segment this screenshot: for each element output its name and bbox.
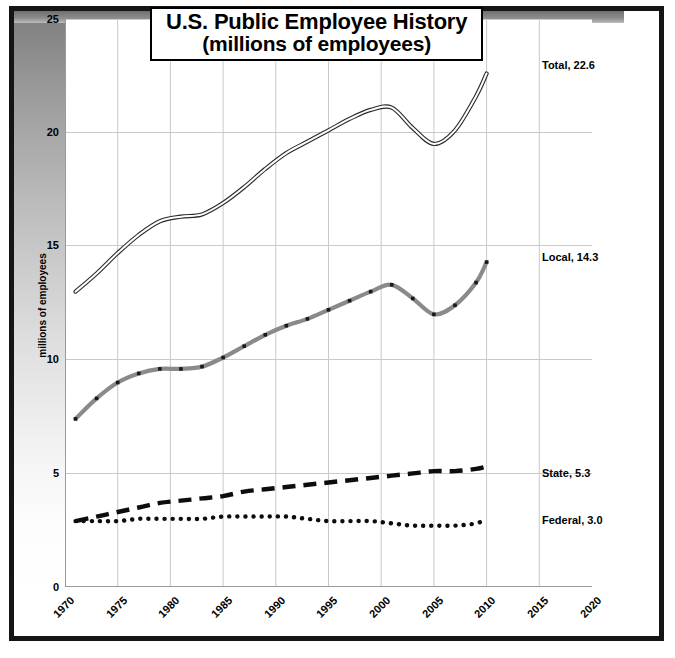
- y-axis-title: millions of employees: [37, 236, 48, 376]
- series-marker-local: [158, 367, 162, 371]
- series-marker-local: [242, 344, 246, 348]
- plot-area: [65, 19, 592, 587]
- series-label-local: Local, 14.3: [542, 251, 598, 263]
- series-marker-local: [263, 333, 267, 337]
- series-marker-local: [221, 356, 225, 360]
- series-marker-local: [137, 372, 141, 376]
- y-tick-20: 20: [33, 126, 59, 138]
- series-marker-local: [74, 417, 78, 421]
- series-marker-local: [348, 299, 352, 303]
- series-marker-local: [453, 303, 457, 307]
- y-tick-5: 5: [33, 467, 59, 479]
- series-marker-local: [390, 283, 394, 287]
- series-marker-local: [432, 313, 436, 317]
- chart-figure: U.S. Public Employee History (millions o…: [0, 0, 675, 658]
- series-marker-local: [95, 397, 99, 401]
- series-marker-local: [369, 290, 373, 294]
- series-label-total: Total, 22.6: [542, 59, 595, 71]
- series-marker-local: [285, 324, 289, 328]
- chart-title-line2: (millions of employees): [166, 33, 467, 54]
- chart-title-line1: U.S. Public Employee History: [166, 11, 467, 33]
- series-label-state: State, 5.3: [542, 467, 590, 479]
- series-marker-local: [179, 367, 183, 371]
- series-marker-local: [474, 281, 478, 285]
- series-marker-local: [411, 297, 415, 301]
- series-marker-local: [200, 365, 204, 369]
- plot-svg: [65, 19, 592, 587]
- series-marker-local: [306, 317, 310, 321]
- series-label-federal: Federal, 3.0: [542, 514, 603, 526]
- series-marker-local: [116, 381, 120, 385]
- series-marker-local: [327, 308, 331, 312]
- y-tick-25: 25: [33, 13, 59, 25]
- chart-title-box: U.S. Public Employee History (millions o…: [150, 7, 483, 61]
- y-tick-0: 0: [33, 581, 59, 593]
- series-marker-local: [485, 260, 489, 264]
